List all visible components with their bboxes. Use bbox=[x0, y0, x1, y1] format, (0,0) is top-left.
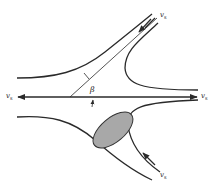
inclined-tick bbox=[84, 73, 89, 79]
left-velocity-label: vs bbox=[6, 93, 13, 101]
lower-right-streamline bbox=[128, 100, 198, 172]
top-right-velocity-label: vs bbox=[160, 12, 167, 20]
inclined-line bbox=[70, 18, 157, 97]
angle-beta-label: β bbox=[90, 86, 95, 94]
right-velocity-label: vs bbox=[201, 93, 208, 101]
upper-right-streamline bbox=[125, 23, 198, 90]
bottom-right-velocity-label: vs bbox=[160, 172, 167, 180]
flow-diagram bbox=[0, 0, 218, 192]
upper-left-streamline bbox=[17, 14, 152, 78]
axis-tick bbox=[92, 100, 93, 107]
